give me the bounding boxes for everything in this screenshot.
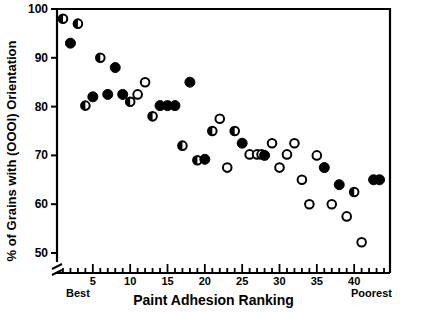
y-axis-title: % of Grains with (OOOl) Orientation [4,40,19,261]
data-point [327,200,336,209]
data-point [334,180,344,190]
marker-filled-circle [65,38,75,48]
data-point [148,112,157,121]
marker-open-circle [283,150,292,159]
marker-open-circle [342,212,351,221]
data-point [126,97,135,106]
y-tick-label-70: 70 [35,148,49,162]
data-point [260,150,270,160]
data-point [268,139,277,148]
y-axis-break-mark-upper [52,264,62,269]
x-tick-label-15: 15 [161,275,173,287]
x-tick-label-40: 40 [348,275,360,287]
data-point [208,127,217,136]
x-tick-label-10: 10 [124,275,136,287]
y-tick-label-60: 60 [35,197,49,211]
marker-open-circle [133,90,142,99]
data-point [298,176,307,185]
data-point [357,238,366,247]
data-points-group [59,14,385,246]
marker-open-circle [290,139,299,148]
data-point [110,63,120,73]
marker-filled-circle [260,150,270,160]
x-axis-title: Paint Adhesion Ranking [133,292,294,308]
data-point [96,54,105,63]
x-axis-label-poorest: Poorest [351,287,392,299]
data-point [215,115,224,124]
chart-figure: 5060708090100510152025303540BestPoorestP… [0,0,423,312]
marker-filled-circle [170,101,180,111]
data-point [103,89,113,99]
plot-frame [57,9,390,273]
marker-open-circle [223,163,232,172]
data-point [141,78,150,87]
data-point [81,101,90,110]
data-point [275,163,284,172]
data-point [305,200,314,209]
data-point [65,38,75,48]
data-point [230,127,239,136]
marker-open-circle [141,78,150,87]
data-point [59,14,68,23]
data-point [313,151,322,160]
x-tick-label-30: 30 [273,275,285,287]
data-point [290,139,299,148]
marker-filled-circle [375,175,385,185]
marker-filled-circle [237,138,247,148]
y-tick-label-80: 80 [35,100,49,114]
data-point [342,212,351,221]
marker-open-circle [327,200,336,209]
data-point [133,90,142,99]
data-point [375,175,385,185]
marker-open-circle [313,151,322,160]
data-point [237,138,247,148]
x-tick-label-5: 5 [90,275,96,287]
marker-filled-circle [118,89,128,99]
data-point [350,188,359,197]
marker-filled-circle [334,180,344,190]
marker-open-circle [298,176,307,185]
y-tick-label-50: 50 [35,246,49,260]
data-point [283,150,292,159]
marker-filled-circle [103,89,113,99]
marker-open-circle [305,200,314,209]
y-tick-label-100: 100 [28,2,48,16]
data-point [88,92,98,102]
data-point [170,101,180,111]
marker-filled-circle [319,163,329,173]
data-point [178,141,187,150]
data-point [185,77,195,87]
data-point [200,154,210,164]
y-tick-label-90: 90 [35,51,49,65]
marker-open-circle [268,139,277,148]
x-tick-label-35: 35 [311,275,323,287]
marker-filled-circle [110,63,120,73]
data-point [319,163,329,173]
marker-filled-circle [185,77,195,87]
marker-open-circle [275,163,284,172]
data-point [74,19,83,28]
x-tick-label-20: 20 [199,275,211,287]
marker-open-circle [357,238,366,247]
x-tick-label-25: 25 [236,275,248,287]
marker-filled-circle [88,92,98,102]
x-axis-label-best: Best [66,287,90,299]
scatter-plot-svg: 5060708090100510152025303540BestPoorestP… [0,0,423,312]
data-point [223,163,232,172]
marker-open-circle [215,115,224,124]
marker-filled-circle [200,154,210,164]
data-point [118,89,128,99]
